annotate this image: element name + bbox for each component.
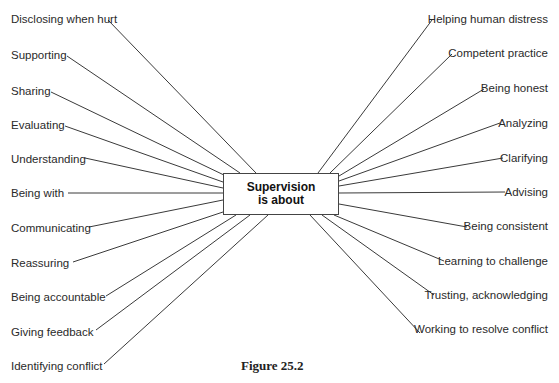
right-node-label: Being honest [481, 81, 548, 95]
right-node-label: Being consistent [464, 219, 548, 233]
right-node-label: Competent practice [448, 46, 548, 60]
left-connector-line [104, 215, 268, 364]
center-node-line2: is about [258, 194, 304, 207]
left-node-label: Disclosing when hurt [11, 12, 117, 26]
left-node-label: Evaluating [11, 118, 65, 132]
left-connector-line [65, 126, 223, 182]
left-node-label: Identifying conflict [11, 359, 102, 373]
left-node-label: Being accountable [11, 290, 106, 304]
right-connector-line [330, 54, 452, 173]
left-connector-line [67, 56, 240, 173]
left-node-label: Communicating [11, 221, 91, 235]
left-node-label: Understanding [11, 152, 86, 166]
left-connector-line [108, 20, 256, 173]
left-connector-line [106, 215, 236, 296]
right-node-label: Analyzing [498, 116, 548, 130]
right-connector-line [318, 20, 432, 173]
left-node-label: Sharing [11, 84, 51, 98]
right-node-label: Helping human distress [428, 12, 548, 26]
right-node-label: Clarifying [500, 151, 548, 165]
right-node-label: Working to resolve conflict [414, 322, 548, 336]
left-node-label: Reassuring [11, 256, 69, 270]
right-node-label: Learning to challenge [438, 254, 548, 268]
right-connector-line [339, 89, 484, 176]
right-connector-line [339, 192, 505, 193]
left-connector-line [85, 158, 223, 188]
figure-caption: Figure 25.2 [241, 358, 304, 374]
left-connector-line [89, 200, 223, 227]
right-connector-line [322, 215, 434, 295]
right-node-label: Trusting, acknowledging [424, 288, 548, 302]
left-node-label: Supporting [11, 48, 67, 62]
center-node: Supervision is about [223, 173, 339, 215]
right-node-label: Advising [505, 185, 548, 199]
right-connector-line [339, 204, 467, 227]
right-connector-line [334, 215, 444, 261]
left-connector-line [96, 215, 250, 330]
right-connector-line [310, 215, 420, 333]
mind-map-diagram: Disclosing when hurtSupportingSharingEva… [0, 0, 559, 383]
left-node-label: Being with [11, 186, 64, 200]
left-node-label: Giving feedback [11, 325, 93, 339]
